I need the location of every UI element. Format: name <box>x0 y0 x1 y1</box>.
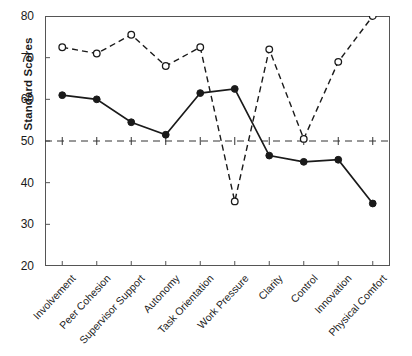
data-point-filled-circle-solid-3 <box>162 131 169 138</box>
series-line-open-circle-dashed <box>62 16 373 201</box>
data-point-filled-circle-solid-2 <box>128 119 135 126</box>
data-point-filled-circle-solid-0 <box>59 92 66 99</box>
data-point-open-circle-dashed-0 <box>59 44 66 51</box>
y-axis-tick-50: 50 <box>0 134 34 148</box>
data-point-filled-circle-solid-8 <box>335 156 342 163</box>
data-point-open-circle-dashed-8 <box>335 59 342 66</box>
data-point-open-circle-dashed-3 <box>162 63 169 70</box>
data-point-open-circle-dashed-4 <box>197 44 204 51</box>
data-point-filled-circle-solid-6 <box>266 152 273 159</box>
data-point-open-circle-dashed-6 <box>266 46 273 53</box>
y-axis-tick-60: 60 <box>0 92 34 106</box>
x-axis-tick-control: Control <box>288 272 320 305</box>
plot-svg <box>45 16 390 266</box>
y-axis-tick-70: 70 <box>0 51 34 65</box>
data-point-open-circle-dashed-7 <box>300 136 307 143</box>
data-point-open-circle-dashed-5 <box>231 198 238 205</box>
data-point-open-circle-dashed-1 <box>93 50 100 57</box>
data-point-open-circle-dashed-2 <box>128 31 135 38</box>
plot-area <box>45 16 390 266</box>
y-axis-tick-20: 20 <box>0 259 34 273</box>
y-axis-tick-80: 80 <box>0 9 34 23</box>
data-point-filled-circle-solid-1 <box>93 96 100 103</box>
data-point-open-circle-dashed-9 <box>369 16 376 19</box>
series-line-filled-circle-solid <box>62 89 373 204</box>
y-axis-tick-labels: 20304050607080 <box>0 0 34 356</box>
x-axis-tick-supervisor-support: Supervisor Support <box>77 272 147 346</box>
y-axis-tick-30: 30 <box>0 217 34 231</box>
x-axis-tick-labels: InvolvementPeer CohesionSupervisor Suppo… <box>45 266 390 356</box>
data-point-filled-circle-solid-4 <box>197 90 204 97</box>
chart-container: Standard Scores 20304050607080 Involveme… <box>0 0 412 356</box>
x-axis-tick-clarity: Clarity <box>256 272 285 302</box>
data-point-filled-circle-solid-5 <box>231 86 238 93</box>
data-point-filled-circle-solid-9 <box>369 200 376 207</box>
y-axis-tick-40: 40 <box>0 176 34 190</box>
data-point-filled-circle-solid-7 <box>300 158 307 165</box>
